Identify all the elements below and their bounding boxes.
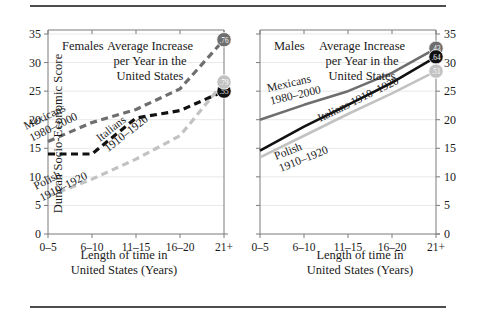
top-rule xyxy=(30,5,446,7)
figure-root: Duncan Socio-Economic Score 0–56–1011–15… xyxy=(0,0,482,319)
x-axis-title-line1: Length of time in xyxy=(80,248,167,262)
y-tick-label: 30 xyxy=(444,56,456,70)
x-axis-title-line2: United States (Years) xyxy=(244,263,476,278)
y-tick-label: 5 xyxy=(35,198,41,212)
annotation-line: per Year in the xyxy=(114,54,187,68)
endpoint-badge-value: .64 xyxy=(432,54,441,62)
endpoint-badge: .64 xyxy=(429,50,443,64)
bottom-rule xyxy=(30,306,446,308)
y-tick-label: 25 xyxy=(29,84,41,98)
y-tick-label: 30 xyxy=(29,56,41,70)
endpoint-badge-value: .51 xyxy=(432,68,441,76)
y-axis-title: Duncan Socio-Economic Score xyxy=(51,34,66,234)
y-tick-label: 5 xyxy=(444,198,450,212)
y-tick-label: 25 xyxy=(444,84,456,98)
x-axis-title-females: Length of time in United States (Years) xyxy=(8,248,240,278)
annotation-line: Average Increase xyxy=(107,39,194,53)
y-tick-label: 0 xyxy=(35,227,41,241)
y-tick-label: 35 xyxy=(29,27,41,41)
endpoint-badge-value: .79 xyxy=(220,79,229,87)
annotation-line: per Year in the xyxy=(326,54,399,68)
y-tick-label: 15 xyxy=(444,141,456,155)
y-tick-label: 20 xyxy=(444,113,456,127)
plot-area-females: 0–56–1011–1516–2021+05101520253035.76.55… xyxy=(8,22,240,272)
endpoint-badge: .51 xyxy=(429,64,443,78)
x-axis-title-males: Length of time in United States (Years) xyxy=(244,248,476,278)
endpoint-badge: .79 xyxy=(217,75,231,89)
endpoint-badge-value: .76 xyxy=(220,37,229,45)
plot-area-males: 0–56–1011–1516–2021+05101520253035.43.64… xyxy=(244,22,476,272)
x-axis-title-line2: United States (Years) xyxy=(8,263,240,278)
y-tick-label: 35 xyxy=(444,27,456,41)
series-inline-label: Italians1910–1920 xyxy=(94,102,150,154)
y-tick-label: 10 xyxy=(444,170,456,184)
annotation-line: United States xyxy=(116,69,183,83)
panel-title: Females xyxy=(62,39,104,53)
y-tick-label: 15 xyxy=(29,141,41,155)
y-tick-label: 0 xyxy=(444,227,450,241)
panel-title: Males xyxy=(274,39,305,53)
annotation-line: Average Increase xyxy=(319,39,406,53)
x-axis-title-line1: Length of time in xyxy=(316,248,403,262)
endpoint-badge: .76 xyxy=(217,33,231,47)
